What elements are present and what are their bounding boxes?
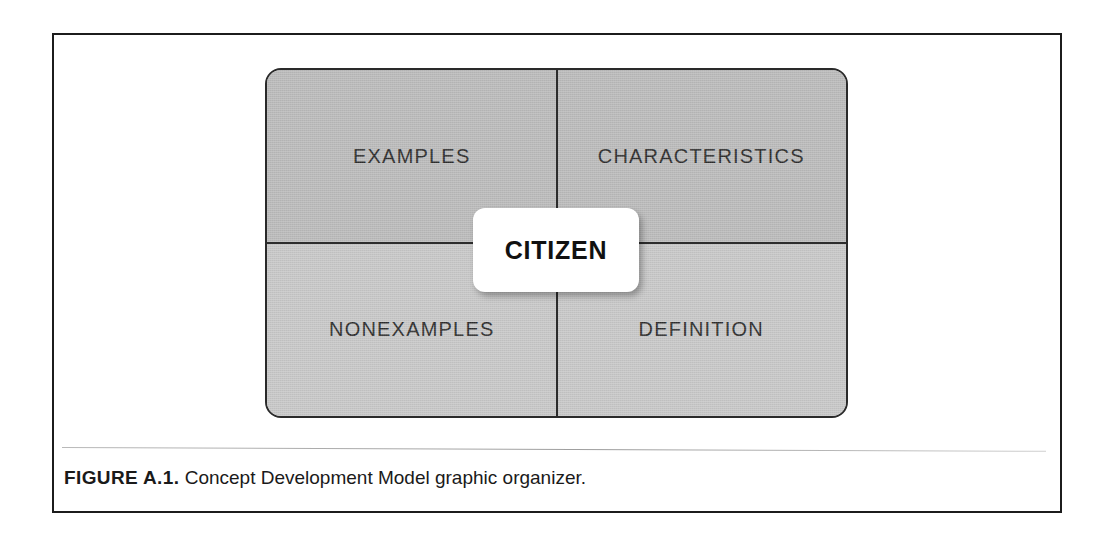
caption-description: Concept Development Model graphic organi… — [185, 467, 586, 488]
quadrant-label-nonexamples: NONEXAMPLES — [329, 318, 494, 341]
figure-caption: FIGURE A.1. Concept Development Model gr… — [64, 467, 1034, 490]
center-concept-label: CITIZEN — [505, 236, 607, 265]
figure-area: EXAMPLES CHARACTERISTICS NONEXAMPLES DEF… — [54, 35, 1060, 511]
quadrant-label-characteristics: CHARACTERISTICS — [598, 145, 805, 168]
quadrant-label-examples: EXAMPLES — [353, 145, 470, 168]
caption-divider-rule — [62, 447, 1046, 452]
caption-figure-number: FIGURE A.1. — [64, 467, 179, 488]
quadrant-label-definition: DEFINITION — [639, 318, 764, 341]
page-frame: EXAMPLES CHARACTERISTICS NONEXAMPLES DEF… — [52, 33, 1062, 513]
center-concept-card[interactable]: CITIZEN — [473, 208, 639, 292]
